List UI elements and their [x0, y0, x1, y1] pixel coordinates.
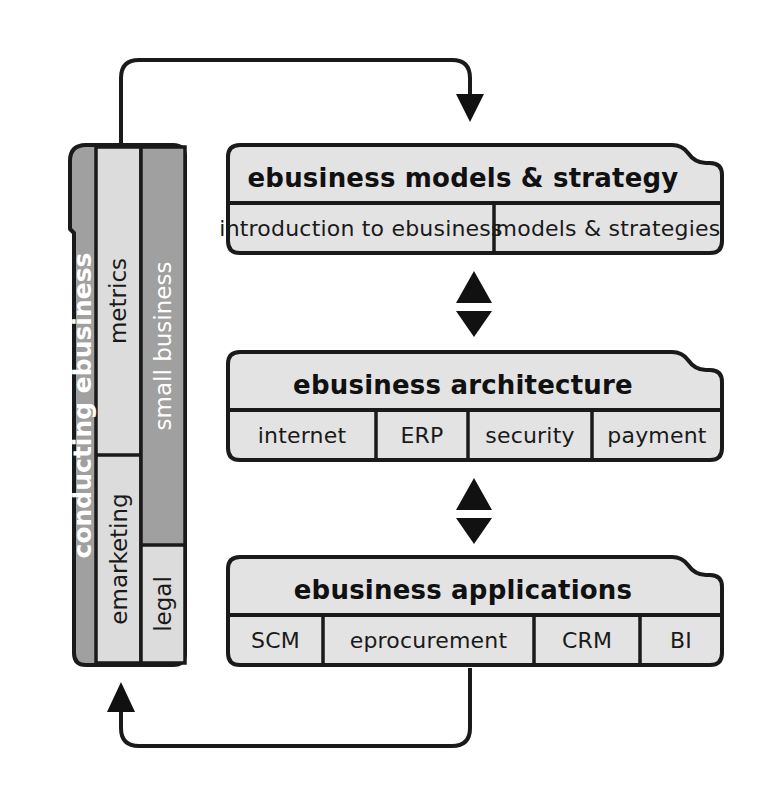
layer-cell-erp[interactable]: ERP [376, 410, 468, 460]
diagram-canvas: conducting ebusiness metrics emarketing … [0, 0, 761, 805]
sidebar-label-small-business: small business [141, 147, 185, 545]
connector-triangles-top [456, 271, 492, 337]
layer-cell-scm[interactable]: SCM [228, 615, 323, 665]
layer-title-architecture: ebusiness architecture [228, 360, 698, 410]
layer-cell-models-strategies[interactable]: models & strategies [494, 203, 722, 253]
sidebar-label-conducting-ebusiness: conducting ebusiness [70, 145, 96, 665]
sidebar-label-metrics: metrics [96, 147, 141, 455]
sidebar-label-legal: legal [141, 545, 185, 663]
layer-cell-eprocurement[interactable]: eprocurement [323, 615, 534, 665]
layer-cell-security[interactable]: security [468, 410, 592, 460]
layer-cell-payment[interactable]: payment [592, 410, 722, 460]
layer-title-applications: ebusiness applications [228, 565, 698, 615]
layer-cell-introduction-to-ebusiness[interactable]: introduction to ebusiness [228, 203, 494, 253]
connector-triangles-bottom [456, 478, 492, 544]
layer-cell-bi[interactable]: BI [640, 615, 722, 665]
triangle-up-icon [456, 478, 492, 510]
layer-cell-crm[interactable]: CRM [534, 615, 640, 665]
sidebar-label-emarketing: emarketing [96, 455, 141, 663]
layer-title-models-strategy: ebusiness models & strategy [228, 153, 698, 203]
triangle-up-icon [456, 271, 492, 303]
triangle-down-icon [456, 311, 492, 337]
feedback-bottom-arrow [107, 668, 470, 746]
triangle-down-icon [456, 518, 492, 544]
layer-cell-internet[interactable]: internet [228, 410, 376, 460]
feedback-top-arrow [121, 60, 484, 148]
